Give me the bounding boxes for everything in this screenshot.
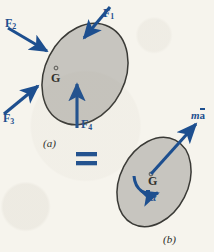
force-label-f1: F1 bbox=[103, 7, 114, 21]
resultant-moment-label-ialpha: Iα bbox=[146, 192, 156, 203]
equals-sign-glyph bbox=[76, 152, 97, 165]
force-label-f4: F4 bbox=[81, 118, 92, 132]
force-label-f2: F2 bbox=[5, 17, 16, 31]
resultant-force-label-ma: ma bbox=[191, 110, 205, 121]
force-arrow-f3 bbox=[4, 86, 38, 114]
panel-caption-a: (a) bbox=[43, 138, 56, 149]
centroid-label-b: G bbox=[148, 175, 157, 187]
force-label-f3: F3 bbox=[3, 112, 14, 126]
force-arrow-f2 bbox=[8, 28, 47, 51]
panel-caption-b: (b) bbox=[163, 234, 176, 245]
figure-svg bbox=[0, 0, 214, 252]
figure-canvas: F1 F2 F3 F4 G (a) ma G Iα (b) bbox=[0, 0, 214, 252]
centroid-label-a: G bbox=[51, 72, 60, 84]
